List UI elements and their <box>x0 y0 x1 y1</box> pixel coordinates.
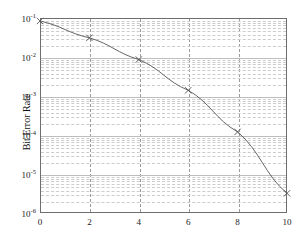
y-gridline-minor <box>41 181 286 182</box>
y-gridline-minor <box>41 101 286 102</box>
y-gridline-decade <box>41 97 286 98</box>
y-gridline-minor <box>41 163 286 164</box>
y-gridline-minor <box>41 60 286 61</box>
y-gridline-minor <box>41 46 286 47</box>
y-gridline-minor <box>41 109 286 110</box>
y-gridline-minor <box>41 23 286 24</box>
y-gridline-minor <box>41 184 286 185</box>
x-gridline <box>189 19 190 212</box>
y-gridline-minor <box>41 106 286 107</box>
y-gridline-minor <box>41 179 286 180</box>
y-gridline-minor <box>41 148 286 149</box>
y-gridline-minor <box>41 140 286 141</box>
y-axis-title: Bit Error Rate <box>21 94 32 151</box>
y-gridline-minor <box>41 67 286 68</box>
y-gridline-minor <box>41 177 286 178</box>
y-gridline-minor <box>41 138 286 139</box>
y-axis-tick-label: 10-2 <box>8 51 36 63</box>
y-axis-tick-label: 10-4 <box>8 129 36 141</box>
y-gridline-minor <box>41 117 286 118</box>
y-gridline-minor <box>41 103 286 104</box>
y-gridline-minor <box>41 74 286 75</box>
y-axis-tick-label: 10-5 <box>8 168 36 180</box>
y-gridline-minor <box>41 195 286 196</box>
x-gridline <box>140 19 141 212</box>
x-axis-tick-label: 10 <box>283 217 292 227</box>
y-gridline-minor <box>41 142 286 143</box>
y-gridline-minor <box>41 145 286 146</box>
y-gridline-minor <box>41 70 286 71</box>
y-axis-tick-label: 10-3 <box>8 90 36 102</box>
y-gridline-minor <box>41 124 286 125</box>
y-gridline-minor <box>41 35 286 36</box>
y-gridline-minor <box>41 62 286 63</box>
y-gridline-minor <box>41 28 286 29</box>
x-axis-tick-label: 4 <box>137 217 142 227</box>
y-gridline-minor <box>41 187 286 188</box>
y-gridline-minor <box>41 152 286 153</box>
y-gridline-minor <box>41 64 286 65</box>
y-gridline-minor <box>41 156 286 157</box>
x-axis-tick-label: 6 <box>186 217 191 227</box>
bit-error-rate-chart: Bit Error Rate 024681010-110-210-310-410… <box>0 0 297 244</box>
y-axis-tick-label: 10-6 <box>8 207 36 219</box>
x-axis-tick-label: 2 <box>87 217 92 227</box>
y-gridline-decade <box>41 175 286 176</box>
y-gridline-minor <box>41 25 286 26</box>
x-gridline <box>90 19 91 212</box>
y-gridline-minor <box>41 191 286 192</box>
y-gridline-minor <box>41 31 286 32</box>
y-gridline-minor <box>41 21 286 22</box>
y-gridline-minor <box>41 202 286 203</box>
x-gridline <box>239 19 240 212</box>
y-gridline-decade <box>41 136 286 137</box>
x-axis-tick-label: 0 <box>38 217 43 227</box>
y-axis-tick-label: 10-1 <box>8 12 36 24</box>
y-gridline-decade <box>41 58 286 59</box>
y-gridline-minor <box>41 99 286 100</box>
plot-area <box>40 18 287 213</box>
y-gridline-minor <box>41 85 286 86</box>
y-gridline-minor <box>41 39 286 40</box>
x-axis-tick-label: 8 <box>235 217 240 227</box>
y-gridline-minor <box>41 78 286 79</box>
y-gridline-minor <box>41 113 286 114</box>
